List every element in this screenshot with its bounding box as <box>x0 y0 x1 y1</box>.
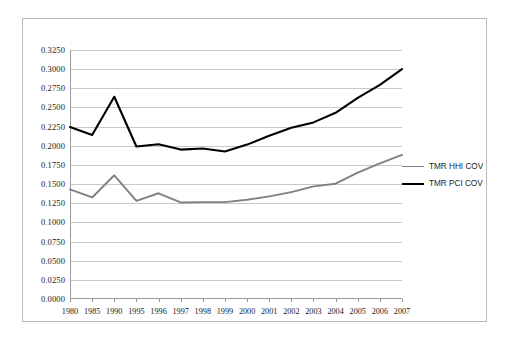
chart-legend: TMR HHI COVTMR PCI COV <box>402 159 486 193</box>
x-axis-tick-mark <box>114 299 115 302</box>
legend-item-label: TMR HHI COV <box>429 162 483 171</box>
x-axis-tick-mark <box>313 299 314 302</box>
x-axis-tick-label: 1990 <box>106 307 122 316</box>
x-axis-tick-mark <box>136 299 137 302</box>
series-line <box>70 69 402 151</box>
y-axis-tick-label: 0.0500 <box>41 256 65 266</box>
x-axis-tick-mark <box>291 299 292 302</box>
y-axis-tick-label: 0.3250 <box>41 45 65 55</box>
y-axis-tick-label: 0.0000 <box>41 294 65 304</box>
y-axis-tick-label: 0.2750 <box>41 83 65 93</box>
x-axis-tick-label: 2006 <box>372 307 388 316</box>
y-axis-tick-label: 0.2000 <box>41 141 65 151</box>
y-axis-tick-label: 0.1000 <box>41 217 65 227</box>
x-axis-tick-label: 2004 <box>327 307 343 316</box>
x-axis-tick-mark <box>92 299 93 302</box>
x-axis-tick-mark <box>336 299 337 302</box>
x-axis-tick-label: 2007 <box>394 307 410 316</box>
x-axis-tick-label: 1998 <box>195 307 211 316</box>
x-axis-tick-label: 2005 <box>350 307 366 316</box>
plot-area: 0.32500.30000.27500.25000.22500.20000.17… <box>70 50 402 299</box>
legend-item[interactable]: TMR HHI COV <box>402 159 486 174</box>
x-axis-tick-mark <box>358 299 359 302</box>
y-axis-tick-label: 0.2500 <box>41 102 65 112</box>
legend-swatch-icon <box>402 166 424 167</box>
x-axis-tick-label: 2003 <box>305 307 321 316</box>
y-axis-tick-label: 0.0250 <box>41 275 65 285</box>
x-axis-tick-label: 2001 <box>261 307 277 316</box>
y-axis-tick-label: 0.2250 <box>41 122 65 132</box>
x-axis-tick-mark <box>225 299 226 302</box>
y-axis-tick-label: 0.1750 <box>41 160 65 170</box>
y-axis-tick-label: 0.1250 <box>41 198 65 208</box>
x-axis-tick-label: 1995 <box>128 307 144 316</box>
chart-figure: 0.32500.30000.27500.25000.22500.20000.17… <box>22 18 487 322</box>
x-axis-tick-mark <box>247 299 248 302</box>
y-axis-tick-label: 0.1500 <box>41 179 65 189</box>
x-axis-tick-mark <box>159 299 160 302</box>
x-axis-tick-label: 1985 <box>84 307 100 316</box>
y-axis-tick-label: 0.0750 <box>41 237 65 247</box>
x-axis-tick-label: 1996 <box>150 307 166 316</box>
series-line <box>70 155 402 203</box>
x-axis-tick-mark <box>269 299 270 302</box>
x-axis-tick-label: 1980 <box>62 307 78 316</box>
x-axis-tick-label: 1997 <box>172 307 188 316</box>
x-axis-tick-label: 1999 <box>217 307 233 316</box>
legend-item[interactable]: TMR PCI COV <box>402 176 486 191</box>
legend-swatch-icon <box>402 183 424 185</box>
legend-item-label: TMR PCI COV <box>429 179 483 188</box>
series-lines <box>70 50 402 299</box>
x-axis-tick-mark <box>402 299 403 302</box>
y-axis-tick-label: 0.3000 <box>41 64 65 74</box>
x-axis-tick-label: 2002 <box>283 307 299 316</box>
x-axis-tick-mark <box>203 299 204 302</box>
x-axis-tick-label: 2000 <box>239 307 255 316</box>
x-axis-tick-mark <box>181 299 182 302</box>
x-axis-tick-mark <box>70 299 71 302</box>
x-axis-tick-mark <box>380 299 381 302</box>
